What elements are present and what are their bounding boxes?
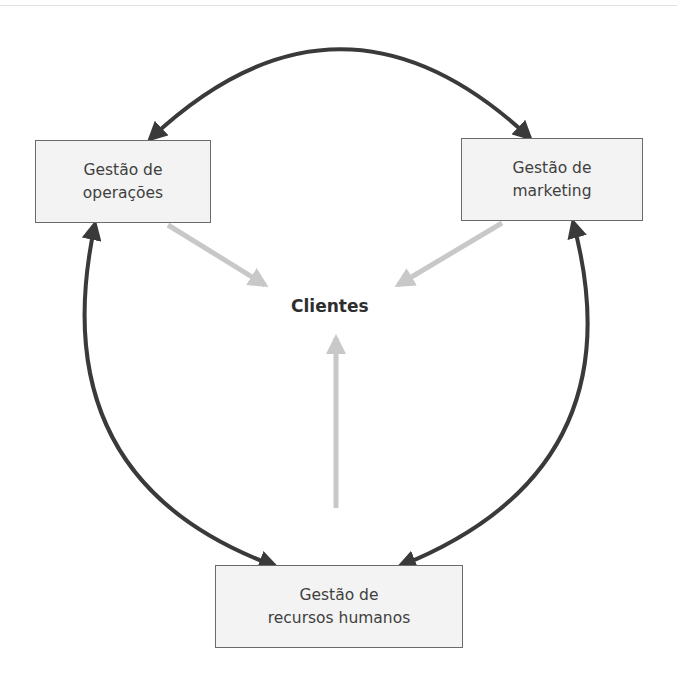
node-label-line1: Gestão de <box>84 159 163 182</box>
client-arrow-from-operacoes <box>168 225 265 285</box>
client-arrow-from-marketing <box>398 223 502 285</box>
node-gestao-operacoes: Gestão de operações <box>35 140 211 223</box>
node-gestao-recursos-humanos: Gestão de recursos humanos <box>215 565 463 648</box>
cycle-arrow-operacoes-marketing <box>150 49 530 139</box>
node-label-line1: Gestão de <box>300 584 379 607</box>
node-label-line1: Gestão de <box>513 157 592 180</box>
node-label-line2: recursos humanos <box>268 607 410 630</box>
center-label-clientes: Clientes <box>291 296 369 316</box>
node-label-line2: operações <box>83 182 163 205</box>
node-gestao-marketing: Gestão de marketing <box>461 138 643 221</box>
cycle-arrow-marketing-rh <box>400 222 588 566</box>
node-label-line2: marketing <box>513 180 592 203</box>
